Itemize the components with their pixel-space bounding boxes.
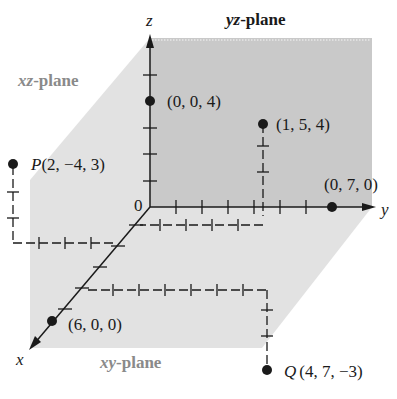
point-0-0-4: [145, 96, 155, 106]
point-6-0-0: [47, 316, 57, 326]
point-1-5-4: [258, 119, 268, 129]
yz-plane-label: yz-plane: [224, 10, 286, 29]
xy-plane-label: xy-plane: [99, 353, 162, 372]
label-Q: Q(4, 7, −3): [284, 362, 363, 381]
label-6-0-0: (6, 0, 0): [68, 315, 122, 334]
y-axis-label: y: [379, 200, 389, 219]
label-0-7-0: (0, 7, 0): [324, 175, 378, 194]
label-1-5-4: (1, 5, 4): [276, 115, 330, 134]
z-axis-label: z: [145, 11, 153, 30]
label-0-0-4: (0, 0, 4): [167, 92, 221, 111]
point-P: [8, 159, 18, 169]
x-axis-label: x: [15, 350, 24, 369]
xz-plane-label: xz-plane: [17, 71, 79, 90]
point-0-7-0: [327, 202, 337, 212]
point-Q: [262, 365, 272, 375]
label-P: P(2, −4, 3): [30, 155, 105, 174]
coordinate-diagram: z y x 0 yz-plane xz-plane xy-plane (0, 0…: [0, 0, 397, 399]
origin-label: 0: [134, 196, 143, 215]
